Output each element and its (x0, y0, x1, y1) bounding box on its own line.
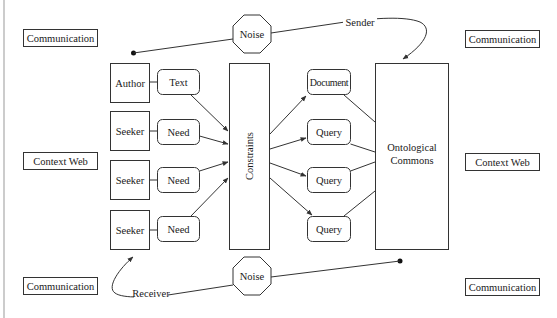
context-label: Communication (27, 33, 95, 44)
output-query-1: Query (308, 120, 351, 145)
constraints-label: Constraints (244, 132, 255, 180)
input-arrows (191, 95, 228, 216)
actor-label: Seeker (116, 175, 145, 186)
output-query-3: Query (308, 217, 351, 242)
actor-seeker-2: Seeker (111, 161, 150, 200)
context-label: Communication (27, 281, 95, 292)
actor-seeker-1: Seeker (111, 112, 150, 151)
noise-octagon-top: Noise (233, 15, 271, 53)
context-box-communication-bottom-right: Communication (466, 279, 540, 296)
output-label: Document (310, 77, 349, 88)
output-document: Document (308, 70, 351, 95)
actor-label: Author (115, 78, 145, 89)
output-label: Query (316, 127, 343, 138)
receiver-label: Receiver (132, 288, 170, 299)
actor-label: Seeker (116, 126, 145, 137)
context-box-communication-bottom-left: Communication (24, 278, 98, 295)
noise-octagon-bottom: Noise (233, 257, 271, 295)
context-box-communication-top-left: Communication (24, 30, 98, 47)
artifact-label: Text (169, 77, 188, 88)
context-box-context-web-left: Context Web (24, 153, 98, 170)
context-box-context-web-right: Context Web (466, 154, 540, 171)
artifact-label: Need (167, 224, 190, 235)
context-label: Communication (469, 282, 537, 293)
artifact-need-2: Need (158, 168, 200, 193)
output-arrows (270, 96, 312, 215)
actor-label: Seeker (116, 225, 145, 236)
artifact-label: Need (167, 175, 190, 186)
artifact-text: Text (158, 70, 200, 95)
output-label: Query (316, 224, 343, 235)
commons-label-line1: Ontological (387, 142, 437, 153)
actor-author: Author (111, 64, 150, 103)
constraints-box: Constraints (230, 64, 270, 250)
context-label: Context Web (475, 157, 530, 168)
noise-label: Noise (240, 271, 265, 282)
commons-label-line2: Commons (390, 155, 433, 166)
context-label: Context Web (33, 156, 88, 167)
artifact-need-3: Need (158, 217, 200, 242)
context-label: Communication (469, 34, 537, 45)
commons-connectors (344, 95, 375, 216)
noise-label: Noise (240, 29, 265, 40)
diagram-canvas: Communication Context Web Communication … (0, 0, 557, 318)
context-box-communication-top-right: Communication (466, 31, 540, 48)
output-query-2: Query (308, 168, 351, 193)
actor-seeker-3: Seeker (111, 211, 150, 250)
artifact-label: Need (167, 127, 190, 138)
output-label: Query (316, 175, 343, 186)
sender-label: Sender (345, 17, 375, 28)
ontological-commons-box: Ontological Commons (376, 64, 449, 250)
sender-channel: Sender (131, 16, 427, 59)
artifact-need-1: Need (158, 120, 200, 145)
